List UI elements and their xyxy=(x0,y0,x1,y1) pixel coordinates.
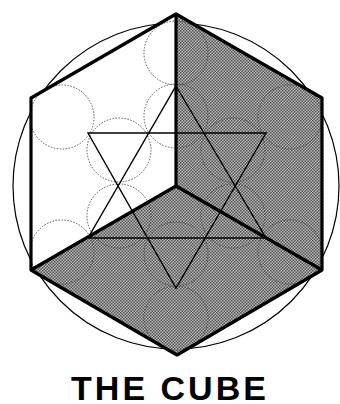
diagram-title: THE CUBE xyxy=(0,368,340,404)
